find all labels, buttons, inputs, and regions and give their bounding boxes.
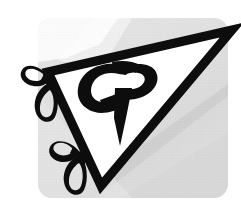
logo-image: Stylized CP monogram inside a tilted tri… xyxy=(0,0,241,206)
monogram-p-counter xyxy=(128,75,141,87)
logo-vector-canvas xyxy=(0,0,241,206)
